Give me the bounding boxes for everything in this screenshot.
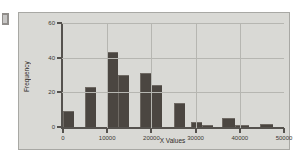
x-axis-tick xyxy=(239,128,241,133)
gridline-vertical xyxy=(240,23,241,129)
histogram-bar xyxy=(107,52,118,127)
histogram-bar xyxy=(140,73,151,127)
x-axis-tick-label: 20000 xyxy=(143,135,160,141)
gridline-vertical xyxy=(151,23,152,129)
x-axis-tick xyxy=(106,128,108,133)
x-axis-tick xyxy=(195,128,197,133)
chart-screenshot: Frequency X Values 020406001000020000300… xyxy=(0,0,308,157)
page-edge-artifact xyxy=(2,13,9,25)
y-axis-title: Frequency xyxy=(22,39,31,115)
histogram-bar xyxy=(222,118,235,127)
x-axis-tick-label: 50000 xyxy=(276,135,293,141)
chart-card: Frequency X Values 020406001000020000300… xyxy=(18,12,290,150)
bar-series xyxy=(61,23,284,129)
gridline-horizontal xyxy=(61,23,284,24)
histogram-bar xyxy=(63,111,74,127)
y-axis-tick-label: 20 xyxy=(48,89,55,95)
gridline-vertical xyxy=(196,23,197,129)
y-axis-line xyxy=(61,23,63,129)
x-axis-tick xyxy=(62,128,64,133)
plot-area: 020406001000020000300004000050000 xyxy=(61,23,284,129)
x-axis-line xyxy=(61,127,284,129)
x-axis-tick xyxy=(283,128,285,133)
x-axis-tick xyxy=(150,128,152,133)
gridline-horizontal xyxy=(61,58,284,59)
x-axis-tick-label: 40000 xyxy=(231,135,248,141)
y-axis-tick-label: 40 xyxy=(48,55,55,61)
x-axis-title: X Values xyxy=(61,137,284,144)
x-axis-tick-label: 10000 xyxy=(99,135,116,141)
x-axis-tick-label: 0 xyxy=(61,135,64,141)
y-axis-tick-label: 0 xyxy=(52,124,55,130)
histogram-bar xyxy=(118,75,129,127)
y-axis-tick xyxy=(57,91,62,93)
gridline-vertical xyxy=(107,23,108,129)
gridline-horizontal xyxy=(61,92,284,93)
y-axis-tick xyxy=(57,57,62,59)
histogram-bar xyxy=(174,103,185,127)
y-axis-tick xyxy=(57,22,62,24)
x-axis-tick-label: 30000 xyxy=(187,135,204,141)
y-axis-tick-label: 60 xyxy=(48,20,55,26)
